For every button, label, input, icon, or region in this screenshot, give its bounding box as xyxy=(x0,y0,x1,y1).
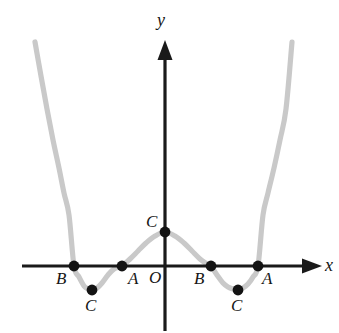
point-label: C xyxy=(146,212,158,231)
point-marker-dot xyxy=(117,261,128,272)
point-marker-dot xyxy=(160,227,171,238)
origin-label: O xyxy=(149,268,161,287)
point-marker-dot xyxy=(206,261,217,272)
marked-point: C xyxy=(231,285,243,315)
point-marker-dot xyxy=(233,285,244,296)
y-axis-arrowhead xyxy=(158,40,173,60)
point-label: B xyxy=(56,269,67,288)
x-axis-arrowhead xyxy=(302,259,322,274)
point-label: A xyxy=(261,269,273,288)
point-marker-dot xyxy=(87,285,98,296)
point-label: C xyxy=(85,296,97,315)
x-axis-label: x xyxy=(324,255,333,275)
x-axis-group xyxy=(22,259,322,274)
point-label: B xyxy=(194,269,205,288)
point-label: A xyxy=(127,269,139,288)
polynomial-graph-figure: x y O BACBACC xyxy=(0,0,339,333)
marked-point: C xyxy=(85,285,97,315)
point-label: C xyxy=(231,296,243,315)
y-axis-group xyxy=(158,40,173,331)
point-marker-dot xyxy=(69,261,80,272)
y-axis-label: y xyxy=(155,10,165,30)
